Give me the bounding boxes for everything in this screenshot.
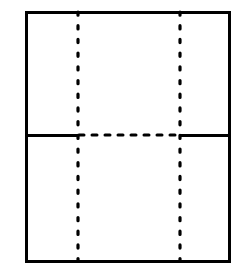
figure-canvas xyxy=(0,0,243,271)
technical-line-drawing-figure xyxy=(0,0,243,271)
